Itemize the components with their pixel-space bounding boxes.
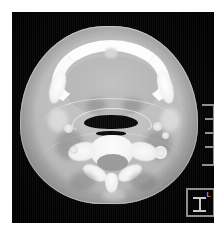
scale-bar-tick [202, 104, 214, 106]
tissue-highlight [102, 190, 126, 202]
scale-bar [201, 104, 214, 166]
tissue-shadow [130, 172, 156, 190]
ct-image-viewer: L [0, 0, 224, 232]
scan-image-canvas[interactable]: L [12, 12, 214, 223]
inferior-axis-bottom-bar [193, 210, 206, 212]
tissue-shadow [70, 172, 96, 190]
vessel [162, 132, 169, 139]
vessel [70, 146, 78, 154]
scale-bar-spine [213, 104, 214, 166]
orientation-marker: L [186, 188, 214, 217]
scale-bar-tick [205, 146, 214, 148]
vessel-ring [154, 146, 167, 159]
left-side-label: L [207, 190, 211, 199]
vessel [64, 124, 73, 133]
scale-bar-tick [205, 132, 214, 134]
vessel [153, 122, 162, 131]
scale-bar-tick [205, 118, 214, 120]
mandible-symphysis [105, 48, 117, 58]
scale-bar-tick [202, 164, 214, 166]
airway-lumen [84, 115, 138, 129]
ct-anatomy-layer [12, 12, 214, 223]
